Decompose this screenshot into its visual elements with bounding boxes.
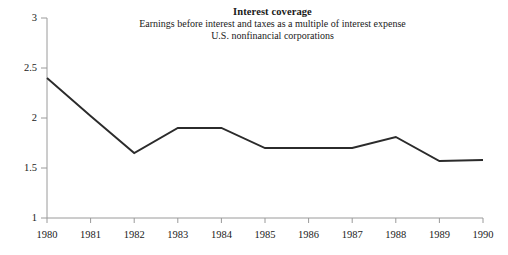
x-tick-label: 1988	[373, 230, 419, 241]
data-series-group	[47, 78, 483, 161]
x-tick-label: 1984	[198, 230, 244, 241]
chart-container: Interest coverage Earnings before intere…	[0, 0, 508, 255]
x-tick-label: 1982	[111, 230, 157, 241]
y-tick-label: 1.5	[3, 163, 37, 174]
x-tick-label: 1980	[24, 230, 70, 241]
x-tick-label: 1986	[286, 230, 332, 241]
y-tick-label: 1	[3, 213, 37, 224]
plot-area	[0, 0, 508, 255]
x-tick-label: 1989	[416, 230, 462, 241]
y-tick-label: 2	[3, 113, 37, 124]
x-tick-label: 1987	[329, 230, 375, 241]
axis-group	[41, 18, 483, 223]
y-tick-label: 2.5	[3, 63, 37, 74]
y-tick-label: 3	[3, 13, 37, 24]
x-tick-label: 1990	[460, 230, 506, 241]
x-tick-label: 1983	[155, 230, 201, 241]
data-line-interest-coverage	[47, 78, 483, 161]
x-tick-label: 1985	[242, 230, 288, 241]
x-tick-label: 1981	[68, 230, 114, 241]
